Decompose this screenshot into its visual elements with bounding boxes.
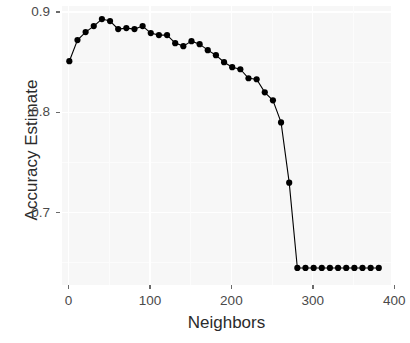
data-point bbox=[164, 32, 170, 38]
x-axis-tick-label: 200 bbox=[220, 293, 243, 308]
data-point bbox=[205, 47, 211, 53]
data-point bbox=[319, 265, 325, 271]
data-point bbox=[140, 23, 146, 29]
x-axis-tick: 100 bbox=[120, 291, 180, 309]
data-point bbox=[123, 25, 129, 31]
x-axis-tick: 0 bbox=[39, 291, 99, 309]
data-point bbox=[286, 180, 292, 186]
x-axis-tick-label: 400 bbox=[383, 293, 406, 308]
y-axis-tick: 0.9 bbox=[0, 4, 50, 18]
data-series-accuracy bbox=[62, 6, 391, 285]
data-point bbox=[66, 58, 72, 64]
x-axis-tick: 400 bbox=[364, 291, 410, 309]
data-point bbox=[213, 52, 219, 58]
data-point bbox=[254, 76, 260, 82]
x-axis-tick-mark bbox=[149, 285, 150, 289]
x-axis-title: Neighbors bbox=[62, 313, 391, 333]
data-point bbox=[229, 64, 235, 70]
y-axis-tick-label: 0.7 bbox=[31, 205, 50, 220]
x-axis-tick-label: 0 bbox=[65, 293, 73, 308]
data-point bbox=[237, 66, 243, 72]
data-point bbox=[245, 75, 251, 81]
x-axis-tick-label: 100 bbox=[139, 293, 162, 308]
data-point bbox=[270, 97, 276, 103]
data-point bbox=[302, 265, 308, 271]
data-point bbox=[74, 37, 80, 43]
data-point bbox=[188, 38, 194, 44]
x-axis-tick: 300 bbox=[283, 291, 343, 309]
data-point bbox=[148, 30, 154, 36]
data-point bbox=[376, 265, 382, 271]
y-axis-tick-mark bbox=[56, 112, 60, 113]
data-point bbox=[294, 265, 300, 271]
data-point bbox=[172, 40, 178, 46]
data-point bbox=[221, 59, 227, 65]
data-point bbox=[343, 265, 349, 271]
data-point bbox=[327, 265, 333, 271]
x-axis-tick: 200 bbox=[201, 291, 261, 309]
data-point bbox=[359, 265, 365, 271]
y-axis-tick-mark bbox=[56, 212, 60, 213]
plot-panel bbox=[62, 6, 391, 285]
x-axis-tick-mark bbox=[312, 285, 313, 289]
data-point bbox=[91, 23, 97, 29]
data-point bbox=[107, 18, 113, 24]
data-point bbox=[99, 16, 105, 22]
data-point bbox=[335, 265, 341, 271]
data-point bbox=[83, 29, 89, 35]
data-point bbox=[278, 119, 284, 125]
y-axis-tick: 0.7 bbox=[0, 205, 50, 219]
data-point bbox=[311, 265, 317, 271]
y-axis-tick-label: 0.8 bbox=[31, 104, 50, 119]
data-point bbox=[156, 32, 162, 38]
data-point bbox=[197, 41, 203, 47]
data-point bbox=[180, 43, 186, 49]
x-axis-tick-label: 300 bbox=[302, 293, 325, 308]
data-point bbox=[131, 26, 137, 32]
x-axis-tick-mark bbox=[68, 285, 69, 289]
series-line bbox=[69, 19, 378, 268]
data-point bbox=[115, 26, 121, 32]
y-axis-tick: 0.8 bbox=[0, 104, 50, 118]
data-point bbox=[351, 265, 357, 271]
x-axis-tick-mark bbox=[394, 285, 395, 289]
data-point bbox=[262, 89, 268, 95]
x-axis-tick-mark bbox=[231, 285, 232, 289]
y-axis-tick-label: 0.9 bbox=[31, 4, 50, 19]
data-point bbox=[368, 265, 374, 271]
y-axis-title: Accuracy Estimate bbox=[22, 40, 42, 260]
y-axis-tick-mark bbox=[56, 11, 60, 12]
